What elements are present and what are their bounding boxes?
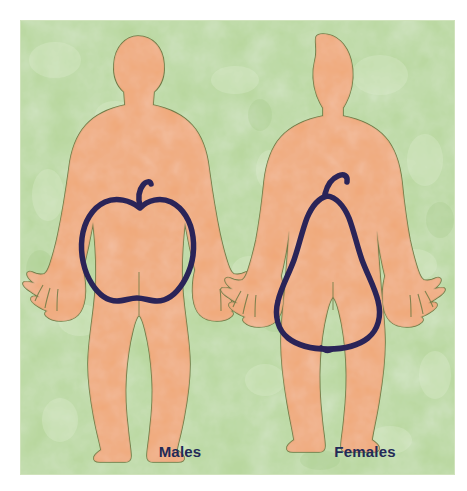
male-label: Males — [159, 443, 202, 460]
illustration-root: Males — [0, 0, 467, 491]
illustration-panel: Males — [20, 20, 455, 475]
body-shapes-diagram: Males — [20, 20, 455, 475]
female-label: Females — [334, 443, 395, 460]
